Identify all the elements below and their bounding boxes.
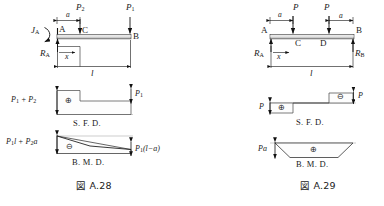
- dimension-l-label: l: [310, 69, 313, 78]
- node-label-c: C: [295, 39, 301, 48]
- bmd-positive-sign: ⊕: [310, 146, 317, 154]
- dimension-x-label: x: [277, 53, 281, 61]
- bmd-negative-sign: ⊖: [66, 143, 73, 151]
- dimension-l-label: l: [91, 69, 94, 78]
- sfd-left-value-label: P1 + P2: [11, 96, 36, 104]
- node-label-a: A: [59, 25, 66, 34]
- sfd-left-value-label: P: [259, 103, 264, 111]
- sfd-positive-sign: ⊕: [278, 104, 285, 112]
- sfd-positive-sign: ⊕: [65, 97, 72, 105]
- fixing-moment-arc: [45, 28, 50, 42]
- load-label-p1: P1: [126, 3, 135, 12]
- sfd-title: S. F. D.: [73, 119, 101, 128]
- dimension-a-right-label: a: [339, 12, 343, 20]
- load-label-p-d: P: [324, 3, 330, 12]
- node-label-d: D: [320, 39, 327, 48]
- fixing-moment-label: JA: [31, 26, 39, 35]
- bmd-left-value-label: P1l + P2a: [6, 138, 37, 146]
- node-label-c: C: [82, 26, 88, 35]
- reaction-label-ra: RA: [40, 49, 50, 58]
- figure-a29: a a P P A C D B RA RB x l P ⊕ ⊖ P S. F. …: [192, 0, 384, 206]
- bmd-right-value-label: P1(l−a): [135, 145, 160, 153]
- figure-page: a P2 P1 A C B JA RA x l P1 + P2 ⊕ P1 S. …: [0, 0, 384, 206]
- bmd-title: B. M. D.: [296, 160, 328, 169]
- load-label-p-c: P: [293, 3, 299, 12]
- beam-body: [270, 35, 354, 39]
- beam-body: [57, 35, 131, 39]
- sfd-right-value-label: P: [358, 92, 363, 100]
- figure-a28: a P2 P1 A C B JA RA x l P1 + P2 ⊕ P1 S. …: [0, 0, 192, 206]
- reaction-label-ra: RA: [254, 49, 264, 58]
- sfd-right-value-label: P1: [135, 90, 143, 98]
- node-label-b: B: [133, 32, 139, 41]
- node-label-a: A: [261, 26, 268, 35]
- dimension-x-label: x: [65, 53, 69, 61]
- load-label-p2: P2: [76, 3, 85, 12]
- bmd-title: B. M. D.: [72, 158, 104, 167]
- sfd-title: S. F. D.: [296, 118, 324, 127]
- figure-caption-a28: 図 A.28: [76, 181, 112, 191]
- bmd-value-label: Pa: [258, 145, 267, 153]
- node-label-b: B: [356, 26, 362, 35]
- dimension-a-left-label: a: [278, 11, 282, 19]
- sfd-negative-sign: ⊖: [337, 93, 344, 101]
- dimension-a-label: a: [66, 11, 70, 19]
- reaction-label-rb: RB: [355, 49, 365, 58]
- dimension-l: [271, 44, 353, 68]
- figure-caption-a29: 図 A.29: [300, 181, 336, 191]
